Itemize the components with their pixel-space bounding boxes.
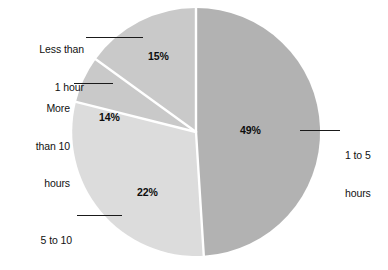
category-label-line: 5 to 10 (8, 234, 72, 247)
category-label-line: hours (6, 177, 70, 190)
category-label-line: 1 to 5 (345, 149, 388, 162)
category-label-more-than-10-hours: More than 10 hours (6, 77, 70, 215)
category-label-1-to-5-hours: 1 to 5 hours (345, 124, 388, 224)
category-label-line: More (6, 102, 70, 115)
value-label-1-to-5-hours: 49% (240, 124, 261, 136)
category-label-line: hours (345, 187, 388, 200)
value-label-5-to-10-hours: 22% (137, 186, 158, 198)
value-label-more-than-10-hours: 14% (99, 111, 120, 123)
pie-chart-figure: Less than 1 hour More than 10 hours 5 to… (0, 0, 388, 270)
value-label-less-than-1-hour: 15% (148, 50, 169, 62)
category-label-line: Less than (12, 43, 84, 56)
category-label-5-to-10-hours: 5 to 10 hours (8, 209, 72, 270)
category-label-line: than 10 (6, 140, 70, 153)
